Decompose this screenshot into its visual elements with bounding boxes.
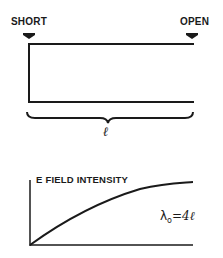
open-label: OPEN [180,16,209,27]
short-label: SHORT [11,16,47,27]
y-axis-label: E FIELD INTENSITY [36,174,128,185]
length-brace [27,112,193,123]
transmission-line [29,44,194,102]
lambda-value: =4ℓ [172,209,195,223]
open-arrow-icon [186,33,198,39]
length-symbol: ℓ [103,124,109,140]
wavelength-annotation: λo=4ℓ [160,209,195,225]
short-arrow-icon [23,33,35,39]
